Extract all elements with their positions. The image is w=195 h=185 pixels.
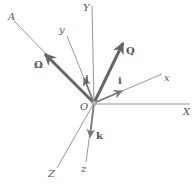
vector-diagram: O Y X Z y x z A Ω Q j i k: [0, 0, 195, 185]
line-A-label: A: [7, 11, 15, 22]
axis-Z-label: Z: [47, 168, 56, 179]
axis-Y-line: [92, 6, 94, 103]
axis-y-label: y: [58, 24, 65, 35]
j-label: j: [84, 73, 89, 84]
axis-x-label: x: [164, 72, 170, 83]
axis-X-label: X: [182, 106, 191, 117]
origin-label: O: [80, 101, 88, 112]
k-label: k: [96, 130, 104, 141]
Q-vector-arrow-icon: [94, 43, 123, 103]
axis-Y-label: Y: [83, 2, 91, 13]
origin-point: [92, 101, 96, 105]
omega-label: Ω: [34, 59, 43, 70]
i-label: i: [118, 75, 122, 86]
Q-label: Q: [126, 45, 135, 56]
axis-z-label: z: [80, 163, 87, 174]
axis-Z-line: [57, 103, 94, 168]
